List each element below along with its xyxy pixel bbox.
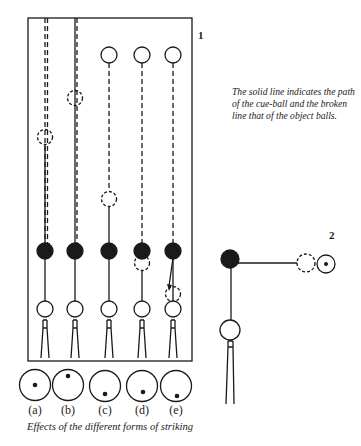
column-c — [101, 47, 117, 358]
diagram-canvas — [0, 0, 361, 446]
figure-2 — [220, 250, 335, 404]
column-b — [67, 18, 83, 358]
strike-label-b: (b) — [61, 403, 75, 418]
strike-label-e: (e) — [169, 403, 182, 418]
figure-2-number: 2 — [329, 229, 335, 241]
strike-circles — [20, 370, 192, 402]
strike-label-c: (c) — [98, 403, 111, 418]
legend-note: The solid line indicates the path of the… — [232, 86, 357, 122]
strike-label-a: (a) — [28, 403, 41, 418]
figure-caption: Effects of the different forms of striki… — [27, 421, 193, 432]
figure-1-number: 1 — [198, 29, 204, 41]
column-d — [134, 47, 150, 358]
column-a — [37, 18, 53, 358]
column-e — [165, 47, 181, 358]
strike-label-d: (d) — [135, 403, 149, 418]
